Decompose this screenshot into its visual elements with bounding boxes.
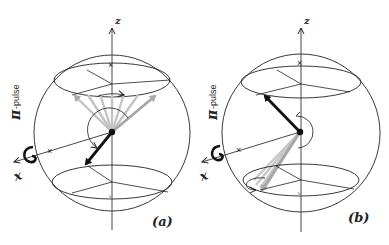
panel-b: z × × x π -pulse [197,15,380,232]
pulse-rotation-icon [24,147,35,162]
spin-vector [86,132,112,164]
z-axis-label: z [114,15,121,26]
precession-fan [75,94,138,132]
north-pole-mark: × [108,60,113,70]
panel-label-a: (a) [152,214,173,229]
svg-text:-pulse: -pulse [11,84,21,109]
sphere-center-dot [297,129,303,135]
svg-text:π: π [7,109,23,121]
bloch-sphere-figure: z × × x π -pulse [0,0,389,245]
z-axis-label: z [303,15,310,26]
south-pole-mark: × [108,192,113,202]
svg-text:-pulse: -pulse [208,84,218,109]
pi-pulse-label: π -pulse [204,84,220,121]
pi-pulse-label: π -pulse [7,84,23,121]
south-pole-mark: × [297,189,302,199]
sphere-center-dot [109,129,115,135]
x-axis-tick: × [236,145,241,155]
pulse-rotation-icon [212,146,223,160]
north-pole-mark: × [297,58,302,68]
x-axis-label: x [11,167,25,184]
x-axis-label: x [197,167,211,184]
panel-a: z × × x π -pulse [7,15,190,230]
x-axis-tick: × [47,146,52,156]
spin-vector [265,96,300,132]
panel-label-b: (b) [348,210,369,225]
svg-text:π: π [204,109,220,121]
